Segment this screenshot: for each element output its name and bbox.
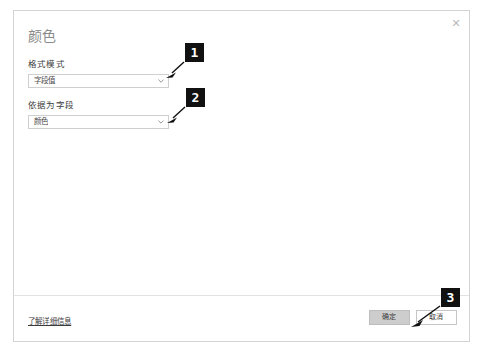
field-label-format-mode: 格式模式 [28,59,455,70]
dialog-body: 颜色 格式模式 字段值 依据为字段 颜色 [14,11,469,295]
annotation-badge-3: 3 [441,288,460,307]
field-base-on: 依据为字段 颜色 [28,100,455,129]
select-base-on-value: 颜色 [29,116,48,128]
footer-buttons: 确定 取消 [369,310,457,325]
select-format-mode-value: 字段值 [29,75,56,87]
chevron-down-icon [158,120,164,124]
learn-more-link[interactable]: 了解详细信息 [28,315,71,326]
select-base-on[interactable]: 颜色 [28,115,169,129]
annotation-badge-2: 2 [186,88,205,107]
ok-button[interactable]: 确定 [369,310,410,325]
annotation-badge-1: 1 [185,43,204,62]
select-format-mode[interactable]: 字段值 [28,74,169,88]
dialog-footer: 了解详细信息 确定 取消 [14,295,469,341]
field-format-mode: 格式模式 字段值 [28,59,455,88]
page-title: 颜色 [28,27,455,45]
cancel-button[interactable]: 取消 [416,310,457,325]
chevron-down-icon [158,79,164,83]
field-label-base-on: 依据为字段 [28,100,455,111]
color-dialog: ✕ 颜色 格式模式 字段值 依据为字段 颜色 [13,10,470,342]
background-text-sliver: ​ [150,350,320,357]
